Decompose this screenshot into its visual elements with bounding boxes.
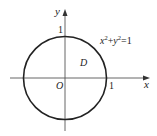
x-axis-label: x [143, 78, 149, 90]
region-label: D [79, 57, 88, 68]
unit-circle-diagram: y 1 x 1 O D x2+y2=1 [0, 0, 157, 136]
y-axis-arrow-icon [63, 9, 68, 16]
y-axis-label: y [54, 5, 60, 17]
x-tick-label: 1 [109, 80, 114, 91]
equation-label: x2+y2=1 [99, 34, 132, 46]
equation-rhs: =1 [121, 35, 132, 46]
y-tick-label: 1 [58, 24, 63, 35]
origin-label: O [56, 80, 63, 91]
